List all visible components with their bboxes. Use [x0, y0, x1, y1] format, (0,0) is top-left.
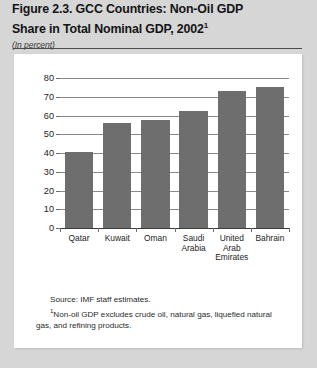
figure-title-line1: Figure 2.3. GCC Countries: Non-Oil GDP — [12, 2, 243, 16]
title-divider — [13, 48, 302, 49]
figure-title: Figure 2.3. GCC Countries: Non-Oil GDP S… — [12, 2, 302, 37]
footnote-text: Non-oil GDP excludes crude oil, natural … — [36, 309, 272, 330]
y-tick-label: 80 — [44, 73, 54, 83]
y-tick-label: 0 — [49, 223, 54, 233]
figure-title-line2: Share in Total Nominal GDP, 2002 — [12, 22, 204, 36]
y-tick-label: 60 — [44, 111, 54, 121]
y-tick-label: 40 — [44, 148, 54, 158]
x-tick-mark — [213, 228, 214, 232]
x-tick-mark — [289, 228, 290, 232]
y-tick-label: 50 — [44, 129, 54, 139]
plot-area: 01020304050607080 QatarKuwaitOmanSaudi A… — [60, 78, 289, 228]
bars-layer — [60, 78, 289, 228]
y-tick-label: 20 — [44, 186, 54, 196]
figure-notes: Source: IMF staff estimates. 1Non-oil GD… — [36, 294, 288, 331]
x-tick-mark — [98, 228, 99, 232]
figure-title-superscript: 1 — [204, 21, 208, 30]
figure-page: Figure 2.3. GCC Countries: Non-Oil GDP S… — [0, 0, 317, 368]
bar — [141, 120, 169, 228]
x-tick-label: Qatar — [69, 234, 90, 244]
footnote: 1Non-oil GDP excludes crude oil, natural… — [36, 306, 288, 332]
figure-panel: 01020304050607080 QatarKuwaitOmanSaudi A… — [14, 54, 302, 348]
y-tick-label: 30 — [44, 167, 54, 177]
x-tick-mark — [136, 228, 137, 232]
bar — [179, 111, 207, 228]
x-tick-mark — [175, 228, 176, 232]
x-tick-label: Bahrain — [255, 234, 284, 244]
bar — [256, 87, 284, 228]
bar — [65, 152, 93, 228]
x-tick-label: United Arab Emirates — [215, 234, 248, 263]
y-tick-label: 10 — [44, 204, 54, 214]
bar — [103, 123, 131, 228]
x-tick-mark — [60, 228, 61, 232]
bar — [218, 91, 246, 228]
x-tick-label: Kuwait — [105, 234, 130, 244]
bar-chart: 01020304050607080 QatarKuwaitOmanSaudi A… — [14, 54, 302, 254]
source-note: Source: IMF staff estimates. — [36, 294, 288, 306]
x-tick-label: Saudi Arabia — [181, 234, 205, 253]
y-tick-label: 70 — [44, 92, 54, 102]
x-tick-label: Oman — [144, 234, 167, 244]
x-tick-mark — [251, 228, 252, 232]
title-block: Figure 2.3. GCC Countries: Non-Oil GDP S… — [12, 2, 302, 50]
